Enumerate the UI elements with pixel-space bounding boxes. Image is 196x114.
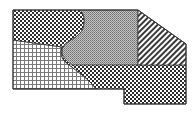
region-diagram bbox=[0, 0, 196, 114]
region-diagonal-right bbox=[138, 10, 186, 65]
